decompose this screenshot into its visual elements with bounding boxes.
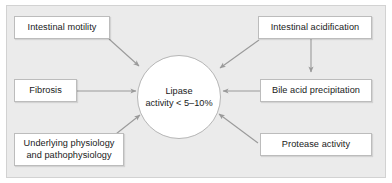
node-label: Protease activity bbox=[278, 139, 354, 151]
hub-label: Lipase activity < 5–10% bbox=[144, 85, 213, 109]
node-label: Intestinal motility bbox=[24, 22, 101, 34]
node-label: Intestinal acidification bbox=[267, 22, 364, 34]
diagram-figure: Intestinal motility Fibrosis Underlying … bbox=[0, 0, 392, 183]
node-protease-activity[interactable]: Protease activity bbox=[260, 133, 372, 156]
node-lipase-activity-hub[interactable]: Lipase activity < 5–10% bbox=[137, 55, 221, 139]
node-label: Bile acid precipitation bbox=[268, 85, 364, 97]
node-bile-acid-precipitation[interactable]: Bile acid precipitation bbox=[260, 79, 372, 102]
node-underlying-physiology[interactable]: Underlying physiology and pathophysiolog… bbox=[14, 133, 124, 166]
node-intestinal-motility[interactable]: Intestinal motility bbox=[14, 16, 110, 39]
node-intestinal-acidification[interactable]: Intestinal acidification bbox=[258, 16, 372, 39]
node-label: Fibrosis bbox=[25, 85, 66, 97]
node-label: Underlying physiology and pathophysiolog… bbox=[20, 138, 119, 161]
node-fibrosis[interactable]: Fibrosis bbox=[14, 79, 77, 102]
